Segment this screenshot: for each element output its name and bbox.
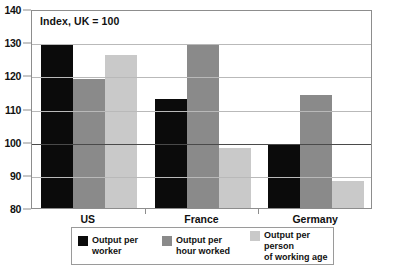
y-tick-label-100: 100 <box>4 137 21 149</box>
y-tick-mark-110 <box>23 109 31 110</box>
bars-layer <box>32 11 371 208</box>
chart-legend: Output perworker Output perhour worked O… <box>71 227 334 265</box>
chart-title: Index, UK = 100 <box>40 15 119 27</box>
y-tick-mark-100 <box>23 142 31 143</box>
gridline-120 <box>32 77 371 78</box>
legend-item: Output per personof working age <box>250 230 342 263</box>
y-tick-mark-120 <box>23 76 31 77</box>
x-category-label-france: France <box>184 213 218 225</box>
x-category-label-us: US <box>81 213 96 225</box>
x-axis-separator <box>145 209 146 214</box>
light-gray-swatch-icon <box>250 231 260 241</box>
y-axis: 8090100110120130140 <box>0 0 31 219</box>
legend-item-label: Output perworker <box>92 235 138 257</box>
bar-france-series1 <box>187 45 219 208</box>
x-axis: USFranceGermany <box>31 209 372 229</box>
y-tick-label-140: 140 <box>4 4 21 16</box>
plot-area <box>31 10 372 209</box>
x-category-label-germany: Germany <box>292 213 338 225</box>
bar-chart: 8090100110120130140 Index, UK = 100 USFr… <box>0 0 403 273</box>
y-tick-mark-140 <box>23 10 31 11</box>
y-tick-label-130: 130 <box>4 37 21 49</box>
gridline-110 <box>32 111 371 112</box>
gray-swatch-icon <box>162 236 172 246</box>
y-tick-label-120: 120 <box>4 70 21 82</box>
bar-us-series0 <box>41 45 73 208</box>
legend-item: Output perhour worked <box>162 235 250 257</box>
y-tick-mark-80 <box>23 209 31 210</box>
y-tick-mark-130 <box>23 43 31 44</box>
legend-item-label: Output per personof working age <box>264 230 342 263</box>
y-tick-label-110: 110 <box>5 104 21 116</box>
bar-germany-series2 <box>332 181 364 208</box>
y-tick-mark-90 <box>23 175 31 176</box>
y-tick-label-80: 80 <box>10 203 21 215</box>
bar-france-series0 <box>155 99 187 208</box>
gridline-130 <box>32 44 371 45</box>
black-swatch-icon <box>78 236 88 246</box>
gridline-90 <box>32 177 371 178</box>
legend-item-label: Output perhour worked <box>176 235 230 257</box>
gridline-100 <box>32 144 371 145</box>
y-tick-label-90: 90 <box>10 170 21 182</box>
bar-france-series2 <box>219 148 251 208</box>
bar-germany-series1 <box>300 95 332 208</box>
legend-item: Output perworker <box>78 235 162 257</box>
x-axis-separator <box>258 209 259 214</box>
